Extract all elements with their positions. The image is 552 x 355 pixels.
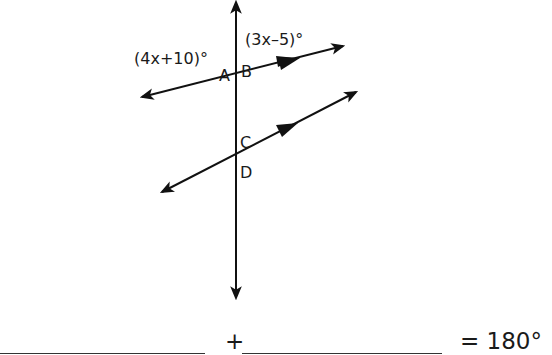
answer-blank-2[interactable]: [242, 353, 442, 354]
parallel-lines-diagram: [0, 0, 552, 355]
answer-blank-1[interactable]: [0, 353, 205, 354]
equation-result: = 180°: [460, 330, 542, 353]
angle-label-d: D: [240, 165, 252, 181]
angle-label-b: B: [241, 64, 252, 80]
angle-label-a: A: [219, 68, 230, 84]
angle-expression-left: (4x+10)°: [134, 51, 208, 67]
plus-sign: +: [225, 330, 244, 353]
lower-parallel-line: [162, 92, 356, 192]
parallel-arrow-mark-lower: [276, 123, 298, 137]
angle-expression-right: (3x–5)°: [245, 32, 303, 48]
angle-label-c: C: [240, 135, 251, 151]
